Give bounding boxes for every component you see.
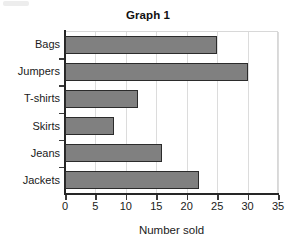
- y-axis-label-skirts: Skirts: [0, 113, 60, 140]
- y-axis-tick: [59, 140, 64, 142]
- x-axis-tick-label: 15: [141, 200, 171, 212]
- x-axis-tick-label: 30: [233, 200, 263, 212]
- bar-chart: Graph 1 BagsJumpersT-shirtsSkirtsJeansJa…: [0, 0, 296, 249]
- y-axis-label-bags: Bags: [0, 31, 60, 58]
- bar-skirts: [65, 117, 114, 135]
- bar-row: [65, 31, 278, 58]
- bar-row: [65, 85, 278, 112]
- scan-artifact: [3, 1, 29, 6]
- y-axis-tick: [59, 85, 64, 87]
- bar-jumpers: [65, 63, 248, 81]
- x-axis-title: Number sold: [65, 224, 278, 236]
- bar-row: [65, 113, 278, 140]
- bar-bags: [65, 36, 217, 54]
- bar-row: [65, 167, 278, 194]
- x-axis-tick-label: 5: [80, 200, 110, 212]
- y-axis-labels: BagsJumpersT-shirtsSkirtsJeansJackets: [0, 31, 60, 194]
- y-axis-label-jumpers: Jumpers: [0, 58, 60, 85]
- chart-title: Graph 1: [0, 9, 296, 21]
- y-axis-tick: [59, 167, 64, 169]
- x-axis-tick-label: 25: [202, 200, 232, 212]
- x-axis-tick-label: 20: [172, 200, 202, 212]
- bar-row: [65, 140, 278, 167]
- bars-layer: [65, 31, 278, 194]
- y-axis-tick: [59, 113, 64, 115]
- x-axis-tick-label: 35: [263, 200, 293, 212]
- bar-row: [65, 58, 278, 85]
- y-axis-tick: [59, 58, 64, 60]
- bar-t-shirts: [65, 90, 138, 108]
- x-axis-tick-label: 0: [50, 200, 80, 212]
- bar-jeans: [65, 144, 162, 162]
- bar-jackets: [65, 171, 199, 189]
- y-axis-label-t-shirts: T-shirts: [0, 85, 60, 112]
- gridline: [278, 32, 279, 194]
- x-axis-tick-label: 10: [111, 200, 141, 212]
- y-axis-label-jeans: Jeans: [0, 140, 60, 167]
- y-axis-label-jackets: Jackets: [0, 167, 60, 194]
